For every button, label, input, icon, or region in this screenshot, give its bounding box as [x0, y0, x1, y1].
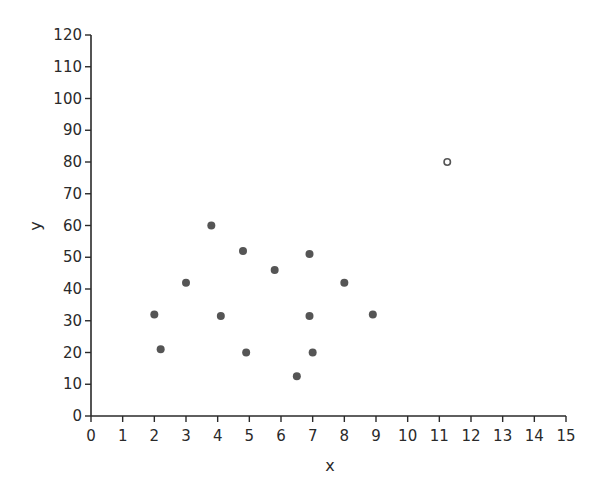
data-point [306, 312, 314, 320]
y-tick-label: 30 [63, 312, 82, 330]
data-point [157, 345, 165, 353]
x-tick-label: 14 [525, 427, 544, 445]
y-tick-label: 80 [63, 153, 82, 171]
y-tick-label: 40 [63, 280, 82, 298]
x-tick-label: 0 [86, 427, 96, 445]
y-tick-label: 120 [53, 26, 82, 44]
y-axis-label: y [26, 221, 45, 230]
x-tick-label: 15 [556, 427, 575, 445]
data-point [293, 372, 301, 380]
data-point [271, 266, 279, 274]
data-point [182, 279, 190, 287]
data-point [340, 279, 348, 287]
x-tick-label: 9 [371, 427, 381, 445]
data-points [150, 159, 450, 381]
x-tick-label: 6 [276, 427, 286, 445]
y-tick-label: 90 [63, 121, 82, 139]
data-point [369, 310, 377, 318]
x-tick-label: 13 [493, 427, 512, 445]
y-tick-label: 50 [63, 248, 82, 266]
data-point [242, 349, 250, 357]
y-tick-label: 0 [72, 407, 82, 425]
axes [91, 35, 566, 416]
data-point [306, 250, 314, 258]
y-tick-label: 100 [53, 90, 82, 108]
x-axis-label: x [325, 456, 334, 475]
y-axis-ticks: 0102030405060708090100110120 [53, 26, 91, 425]
x-tick-label: 8 [340, 427, 350, 445]
x-tick-label: 11 [430, 427, 449, 445]
y-tick-label: 70 [63, 185, 82, 203]
data-point [309, 349, 317, 357]
scatter-chart: 0102030405060708090100110120 01234567891… [0, 0, 601, 494]
x-tick-label: 7 [308, 427, 318, 445]
x-tick-label: 1 [118, 427, 128, 445]
outlier-point [444, 159, 450, 165]
data-point [150, 310, 158, 318]
data-point [207, 222, 215, 230]
y-tick-label: 10 [63, 375, 82, 393]
x-tick-label: 12 [461, 427, 480, 445]
data-point [239, 247, 247, 255]
data-point [217, 312, 225, 320]
x-tick-label: 4 [213, 427, 223, 445]
y-tick-label: 20 [63, 344, 82, 362]
y-tick-label: 110 [53, 58, 82, 76]
y-tick-label: 60 [63, 217, 82, 235]
x-axis-ticks: 0123456789101112131415 [86, 416, 575, 445]
x-tick-label: 10 [398, 427, 417, 445]
x-tick-label: 5 [245, 427, 255, 445]
x-tick-label: 3 [181, 427, 191, 445]
x-tick-label: 2 [150, 427, 160, 445]
